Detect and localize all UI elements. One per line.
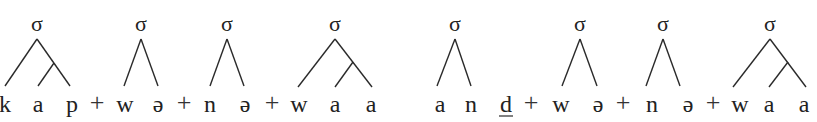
left-branch-line: [124, 39, 141, 86]
segment: a: [330, 91, 341, 117]
inner-branch-line: [769, 62, 788, 87]
segment: w: [731, 91, 749, 117]
left-branch-line: [646, 39, 663, 86]
right-branch-line: [663, 39, 680, 86]
segment: w: [116, 91, 134, 117]
segment: a: [799, 91, 810, 117]
segment: ə: [593, 91, 604, 117]
right-branch-line: [37, 39, 70, 86]
segment: a: [33, 91, 44, 117]
segment: d: [500, 91, 512, 117]
segment-group-2: and+wə+nə+waa: [435, 88, 810, 117]
syllable-node: σ: [210, 11, 244, 86]
segment: w: [290, 91, 308, 117]
sigma-label: σ: [221, 11, 233, 36]
segment: k: [0, 91, 11, 117]
segment: n: [646, 91, 658, 117]
inner-branch-line: [38, 63, 54, 86]
sigma-label: σ: [449, 11, 461, 36]
syllable-node: σ: [562, 11, 597, 86]
syllable-structure-diagram: σσσσσσσσ kap+wə+nə+waaand+wə+nə+waa: [0, 0, 817, 122]
sigma-label: σ: [657, 11, 669, 36]
morpheme-boundary: +: [524, 88, 539, 117]
syllable-node: σ: [646, 11, 680, 86]
right-branch-line: [227, 39, 244, 86]
right-branch-line: [580, 39, 597, 86]
segment: ə: [240, 91, 251, 117]
segment: n: [204, 91, 216, 117]
segment: ə: [683, 91, 694, 117]
morpheme-boundary: +: [616, 88, 631, 117]
right-branch-line: [455, 39, 471, 86]
segment: w: [552, 91, 570, 117]
syllable-trees: σσσσσσσσ: [5, 11, 806, 87]
inner-branch-line: [335, 62, 353, 87]
left-branch-line: [298, 39, 335, 87]
segment-row: kap+wə+nə+waaand+wə+nə+waa: [0, 88, 810, 117]
syllable-node: σ: [733, 11, 806, 87]
sigma-label: σ: [135, 11, 147, 36]
syllable-node: σ: [124, 11, 158, 86]
segment: p: [66, 91, 78, 117]
left-branch-line: [210, 39, 227, 86]
sigma-label: σ: [764, 11, 776, 36]
sigma-label: σ: [31, 11, 43, 36]
segment-group-1: kap+wə+nə+waa: [0, 88, 377, 117]
left-branch-line: [5, 39, 37, 86]
syllable-node: σ: [437, 11, 471, 86]
segment: a: [764, 91, 775, 117]
syllable-group-2: σσσσ: [437, 11, 806, 87]
left-branch-line: [733, 39, 770, 87]
sigma-label: σ: [574, 11, 586, 36]
segment: n: [465, 91, 477, 117]
left-branch-line: [562, 39, 580, 86]
left-branch-line: [437, 39, 455, 86]
morpheme-boundary: +: [90, 88, 105, 117]
segment: a: [366, 91, 377, 117]
right-branch-line: [141, 39, 158, 86]
morpheme-boundary: +: [265, 88, 280, 117]
morpheme-boundary: +: [706, 88, 721, 117]
sigma-label: σ: [329, 11, 341, 36]
syllable-node: σ: [298, 11, 372, 87]
morpheme-boundary: +: [177, 88, 192, 117]
segment: a: [435, 91, 446, 117]
segment: ə: [153, 91, 164, 117]
syllable-group-1: σσσσ: [5, 11, 372, 87]
syllable-node: σ: [5, 11, 70, 86]
